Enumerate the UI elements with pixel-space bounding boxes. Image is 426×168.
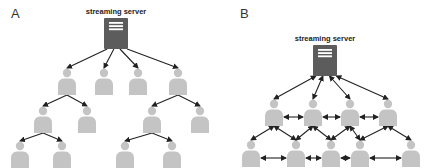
person-icon [34,107,52,133]
person-icon [351,141,369,167]
person-icon [379,100,397,126]
server-icon [104,18,128,49]
person-icon [11,142,29,168]
arrow [274,126,296,140]
person-icon [191,107,209,133]
person-icon [143,107,161,133]
person-icon [53,142,71,168]
person-icon [78,107,96,133]
person-icon [402,141,420,167]
person-icon [341,100,359,126]
server-icon [313,45,337,76]
arrow [152,95,178,106]
person-icon [95,69,113,95]
arrow [67,95,87,106]
arrow [331,126,350,140]
person-icon [58,69,76,95]
person-icon [129,69,147,95]
arrow [178,95,200,106]
arrow [313,76,323,99]
person-icon [304,100,322,126]
person-icon [265,100,283,126]
person-icon [169,69,187,95]
nodes-layer [11,18,420,168]
arrow [274,76,316,99]
arrow [350,126,360,140]
p2p-streaming-diagram [0,0,426,168]
arrow [43,133,62,141]
arrow [360,126,388,140]
arrow [330,76,351,99]
person-icon [163,142,181,168]
person-icon [242,141,260,167]
person-icon [287,141,305,167]
arrow [313,126,331,140]
person-icon [116,142,134,168]
arrow [152,133,172,141]
arrow [388,126,411,140]
arrow [125,133,152,141]
arrow [336,76,388,99]
arrow [67,49,107,68]
arrow [251,126,274,140]
person-icon [322,141,340,167]
arrow [20,133,43,141]
arrow [104,49,114,68]
arrow [43,95,67,106]
arrow [296,126,313,140]
